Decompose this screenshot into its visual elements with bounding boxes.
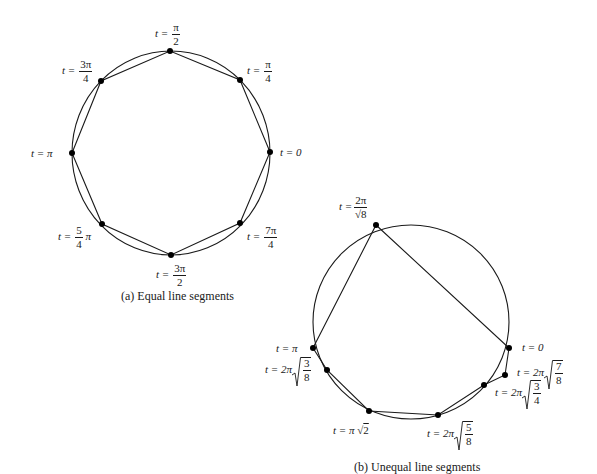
caption-b: (b) Unequal line segments	[354, 460, 480, 474]
numerator: 5	[75, 225, 83, 238]
point-b-t-2pi-sqrt-5-8	[435, 412, 441, 418]
label-t-eq: t =	[156, 268, 169, 280]
label-b-t-2pi-over-sqrt8: t =2π√8	[339, 195, 367, 220]
point-t-5pi-4	[99, 221, 105, 227]
radical-sign	[544, 360, 553, 390]
numerator: 3π	[79, 59, 92, 72]
point-b-t-2pi-sqrt-7-8	[502, 372, 508, 378]
denominator: 8	[465, 435, 473, 447]
label-b-t-2pi-sqrt-3-4: t = 2π34	[495, 380, 541, 406]
label-t-eq: t =	[247, 230, 260, 242]
fraction: 7π4	[264, 225, 277, 250]
sqrt: 78	[544, 360, 563, 386]
label-b-t-pi-sqrt2: t = π √2	[333, 425, 369, 436]
label-t-2pi: t = 2π	[495, 386, 522, 398]
point-b-t-pi	[310, 345, 316, 351]
label-t-2pi: t = 2π	[517, 366, 544, 378]
point-b-t0	[506, 345, 512, 351]
label-t-2pi: t = 2π	[427, 427, 454, 439]
point-t-pi-4	[237, 77, 243, 83]
label-t-3pi-2: t =3π2	[156, 263, 186, 288]
denominator: 8	[555, 374, 563, 386]
label-b-t-pi: t = π	[276, 343, 298, 354]
point-b-t-2pi-over-sqrt8	[373, 222, 379, 228]
fraction: 34	[533, 381, 541, 406]
radicand: 2	[363, 424, 369, 436]
radical-sign	[522, 380, 531, 410]
fraction: π4	[264, 59, 272, 84]
caption-a: (a) Equal line segments	[121, 289, 234, 304]
denominator: 8	[303, 371, 311, 383]
point-t-3pi-4	[98, 78, 104, 84]
figure-b	[313, 225, 509, 419]
numerator: 3π	[173, 263, 186, 276]
label-t-eq: t =	[339, 200, 352, 212]
point-b-t-pi-sqrt2	[366, 408, 372, 414]
radical-sign	[292, 357, 301, 387]
circle-b	[313, 225, 509, 419]
label-t-3pi-4: t =3π4	[62, 59, 92, 84]
fraction: 58	[465, 422, 473, 447]
radicand: 38	[301, 357, 311, 383]
point-t0	[267, 149, 273, 155]
radicand: 8	[361, 208, 367, 220]
denominator: 4	[79, 72, 92, 84]
label-t-eq: t =	[247, 64, 260, 76]
denominator: 2	[173, 276, 186, 288]
point-t-7pi-4	[237, 220, 243, 226]
denominator: √8	[354, 208, 367, 220]
radicand: 58	[463, 421, 473, 447]
label-t-5-4-pi: t =54 π	[58, 225, 91, 250]
denominator: 4	[533, 394, 541, 406]
polygon-unequal-segments	[313, 225, 509, 415]
point-t-pi-2	[167, 48, 173, 54]
label-t-7pi-4: t =7π4	[247, 225, 277, 250]
label-t-2pi: t = 2π	[265, 363, 292, 375]
label-t-pi: t = π	[333, 424, 355, 436]
sqrt: √2	[357, 424, 369, 436]
label-t-eq: t =	[62, 64, 75, 76]
label-t-pi-4: t =π4	[247, 59, 272, 84]
fraction: 2π√8	[354, 195, 367, 220]
label-t-0: t = 0	[280, 147, 301, 158]
numerator: 7π	[264, 225, 277, 238]
denominator: 2	[172, 35, 180, 47]
numerator: 3	[533, 381, 541, 394]
pi-symbol: π	[85, 230, 91, 242]
fraction: 54	[75, 225, 83, 250]
denominator: 4	[264, 72, 272, 84]
fraction: 3π4	[79, 59, 92, 84]
sqrt: 34	[522, 380, 541, 406]
label-b-t-0: t = 0	[522, 342, 543, 353]
fraction: 38	[303, 358, 311, 383]
point-t-3pi-2	[168, 252, 174, 258]
label-t-eq: t =	[155, 27, 168, 39]
point-b-t-2pi-sqrt-3-8	[324, 367, 330, 373]
denominator: 4	[75, 238, 83, 250]
label-b-t-2pi-sqrt-5-8: t = 2π58	[427, 421, 473, 447]
fraction: 78	[555, 361, 563, 386]
label-t-eq: t =	[58, 230, 71, 242]
label-b-t-2pi-sqrt-3-8: t = 2π38	[265, 357, 311, 383]
radicand: 34	[531, 380, 541, 406]
sqrt: 58	[454, 421, 473, 447]
point-b-t-2pi-sqrt-3-4	[481, 382, 487, 388]
numerator: π	[172, 22, 180, 35]
radicand: 78	[553, 360, 563, 386]
numerator: 5	[465, 422, 473, 435]
denominator: 4	[264, 238, 277, 250]
label-t-pi: t = π	[31, 148, 53, 159]
numerator: 7	[555, 361, 563, 374]
radical-sign	[454, 421, 463, 451]
fraction: π2	[172, 22, 180, 47]
figure-a-points	[69, 48, 273, 258]
sqrt: 38	[292, 357, 311, 383]
label-t-pi-2: t =π2	[155, 22, 180, 47]
numerator: 2π	[354, 195, 367, 208]
numerator: 3	[303, 358, 311, 371]
point-t-pi	[69, 150, 75, 156]
fraction: 3π2	[173, 263, 186, 288]
numerator: π	[264, 59, 272, 72]
